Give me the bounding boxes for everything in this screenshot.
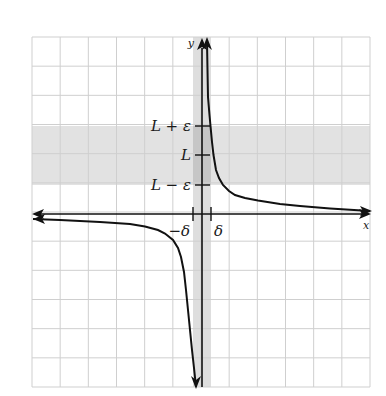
label-L-plus-epsilon: L + ε xyxy=(150,117,191,135)
grid xyxy=(32,37,370,387)
label-L: L xyxy=(180,146,191,164)
label-L-minus-epsilon: L − ε xyxy=(150,176,191,194)
label-delta: δ xyxy=(214,222,223,240)
label-x-axis: x xyxy=(363,219,370,232)
label-minus-delta: −δ xyxy=(168,222,190,240)
label-y-axis: y xyxy=(187,37,195,50)
epsilon-delta-graph: L + ε L L − ε −δ δ y x xyxy=(0,0,386,396)
curve-lower-left-branch xyxy=(33,219,196,387)
